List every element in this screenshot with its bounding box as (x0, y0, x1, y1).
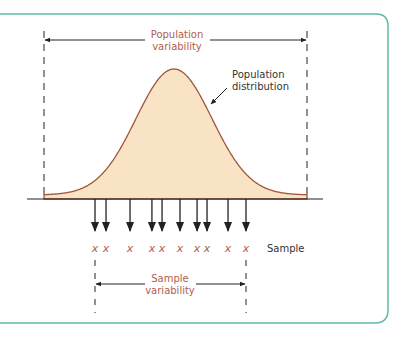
population-distribution-label-2: distribution (232, 81, 289, 92)
sample-variability-label-2: variability (145, 285, 195, 296)
population-vs-sample-diagram: Population variability Population distri… (0, 0, 406, 339)
sample-mark: x (102, 242, 110, 255)
sample-mark: x (242, 242, 250, 255)
sample-mark: x (224, 242, 232, 255)
population-variability-label-1: Population (151, 29, 204, 40)
sample-mark: x (148, 242, 156, 255)
population-distribution-pointer (211, 88, 227, 104)
sample-mark: x (158, 242, 166, 255)
sample-variability-label-1: Sample (151, 273, 189, 284)
sample-mark: x (193, 242, 201, 255)
sample-mark: x (203, 242, 211, 255)
population-variability-label-2: variability (152, 41, 202, 52)
sample-mark: x (91, 242, 99, 255)
sample-group: xxxxxxxxxx (91, 199, 250, 255)
sample-mark: x (126, 242, 134, 255)
sample-label: Sample (267, 243, 305, 254)
sample-mark: x (176, 242, 184, 255)
population-distribution-label-1: Population (232, 69, 285, 80)
